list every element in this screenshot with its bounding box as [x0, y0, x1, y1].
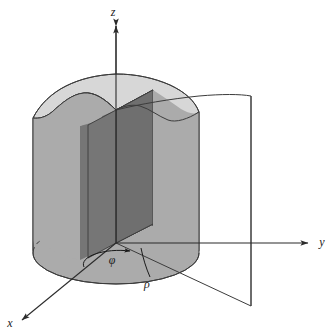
phi-label: φ: [109, 253, 116, 267]
wedge-face-outer: [116, 90, 153, 243]
diagram-canvas: z y x φ ρ: [0, 0, 334, 335]
y-axis-label: y: [318, 235, 325, 249]
x-axis-label: x: [6, 316, 13, 330]
cylindrical-coordinates-figure: z y x φ ρ: [0, 0, 334, 335]
z-axis-label: z: [110, 5, 116, 19]
front-right-occluder: [153, 90, 199, 277]
rho-label: ρ: [143, 277, 150, 291]
cylinder-front-right-overlay: [153, 90, 199, 277]
wedge-face-inner: [88, 110, 116, 258]
